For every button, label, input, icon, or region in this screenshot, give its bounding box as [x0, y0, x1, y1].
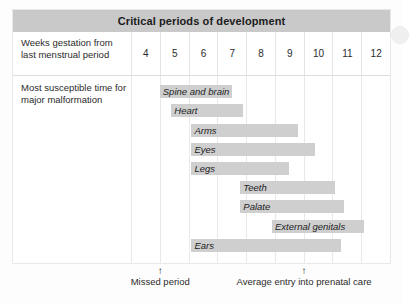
bar-label: Arms — [191, 125, 216, 136]
week-tick-cell: 7 — [217, 32, 246, 75]
scan-artifact-dot — [391, 26, 409, 44]
week-tick-cell: 10 — [304, 32, 333, 75]
bar-label: Ears — [191, 240, 214, 251]
critical-period-bar: Arms — [191, 124, 297, 137]
figure-footnotes: ↑ Missed period ↑ Average entry into pre… — [12, 264, 391, 298]
bar-plot-area: Spine and brainHeartArmsEyesLegsTeethPal… — [131, 76, 390, 263]
footnote-text: Average entry into prenatal care — [237, 276, 372, 287]
malformation-bars-row: Most susceptible time for major malforma… — [13, 76, 390, 263]
malformation-label: Most susceptible time for major malforma… — [21, 82, 127, 106]
critical-period-bar: Teeth — [240, 181, 335, 194]
critical-period-bar: Spine and brain — [160, 85, 232, 98]
bar-label: Heart — [171, 105, 197, 116]
critical-period-bar: Eyes — [191, 143, 315, 156]
critical-periods-figure: Critical periods of development Weeks ge… — [12, 9, 391, 264]
week-tick-cell: 5 — [160, 32, 189, 75]
footnote-prenatal-care: ↑ Average entry into prenatal care — [204, 266, 404, 287]
footnote-text: Missed period — [131, 276, 190, 287]
critical-period-bar: Ears — [191, 239, 341, 252]
week-tick-cell: 8 — [246, 32, 275, 75]
bar-label: External genitals — [272, 221, 345, 232]
critical-period-bar: External genitals — [272, 220, 364, 233]
week-tick-cell: 4 — [131, 32, 160, 75]
week-tick-cell: 12 — [361, 32, 390, 75]
critical-period-bar: Legs — [191, 162, 289, 175]
bar-label: Teeth — [240, 182, 266, 193]
critical-period-bar: Heart — [171, 104, 243, 117]
up-arrow-icon: ↑ — [204, 266, 404, 276]
week-tick-cell: 9 — [275, 32, 304, 75]
weeks-gestation-row: Weeks gestation from last menstrual peri… — [13, 32, 390, 76]
week-tick-cell: 6 — [189, 32, 218, 75]
critical-period-bar: Palate — [240, 200, 344, 213]
weeks-tick-cells: 4 5 6 7 8 9 10 11 12 — [131, 32, 390, 75]
bar-label: Spine and brain — [160, 86, 230, 97]
weeks-gestation-label: Weeks gestation from last menstrual peri… — [21, 37, 127, 61]
week-tick-cell: 11 — [332, 32, 361, 75]
bar-label: Eyes — [191, 144, 215, 155]
figure-title-bar: Critical periods of development — [13, 10, 390, 32]
bar-label: Palate — [240, 201, 270, 212]
figure-title: Critical periods of development — [118, 15, 286, 27]
bar-label: Legs — [191, 163, 215, 174]
bar-layer: Spine and brainHeartArmsEyesLegsTeethPal… — [131, 76, 390, 263]
